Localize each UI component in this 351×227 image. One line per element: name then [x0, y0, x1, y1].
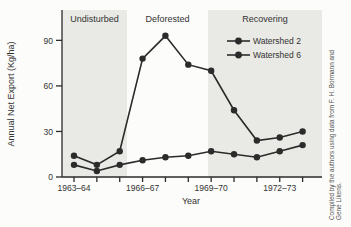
y-axis-title: Annual Net Export (Kg/ha): [6, 41, 16, 146]
data-point: [162, 154, 168, 160]
y-tick-label: 0: [48, 172, 53, 182]
data-point: [71, 153, 77, 159]
y-tick-label: 90: [44, 36, 54, 46]
data-point: [94, 162, 100, 168]
region-label: Recovering: [242, 14, 288, 24]
data-point: [254, 154, 260, 160]
data-point: [117, 148, 123, 154]
data-point: [299, 128, 305, 134]
region-label: Deforested: [145, 14, 189, 24]
source-credit: Compiled by the authors using data from …: [328, 20, 344, 220]
chart-svg: UndisturbedDeforestedRecovering 03060901…: [0, 0, 351, 227]
legend-dot-icon: [235, 38, 242, 45]
data-point: [94, 168, 100, 174]
data-point: [277, 134, 283, 140]
x-tick-label: 1969–70: [195, 183, 228, 193]
y-tick-label: 60: [44, 81, 54, 91]
legend-label: Watershed 6: [253, 50, 301, 60]
legend-label: Watershed 2: [253, 36, 301, 46]
region-label: Undisturbed: [70, 14, 119, 24]
x-tick-label: 1972–73: [263, 183, 296, 193]
x-axis-title: Year: [182, 196, 200, 206]
data-point: [139, 157, 145, 163]
data-point: [231, 107, 237, 113]
data-point: [117, 162, 123, 168]
source-credit-line2: Gene Likens.: [335, 20, 342, 220]
data-point: [208, 148, 214, 154]
data-point: [231, 151, 237, 157]
source-credit-line1: Compiled by the authors using data from …: [328, 20, 335, 220]
legend-dot-icon: [235, 52, 242, 59]
y-tick-label: 30: [44, 127, 54, 137]
x-tick-label: 1966–67: [126, 183, 159, 193]
x-tick-label: 1963–64: [57, 183, 90, 193]
data-point: [277, 148, 283, 154]
data-point: [139, 55, 145, 61]
data-point: [162, 33, 168, 39]
data-point: [71, 162, 77, 168]
data-point: [299, 142, 305, 148]
data-point: [185, 61, 191, 67]
data-point: [208, 68, 214, 74]
data-point: [254, 137, 260, 143]
data-point: [185, 153, 191, 159]
figure: UndisturbedDeforestedRecovering 03060901…: [0, 0, 351, 227]
